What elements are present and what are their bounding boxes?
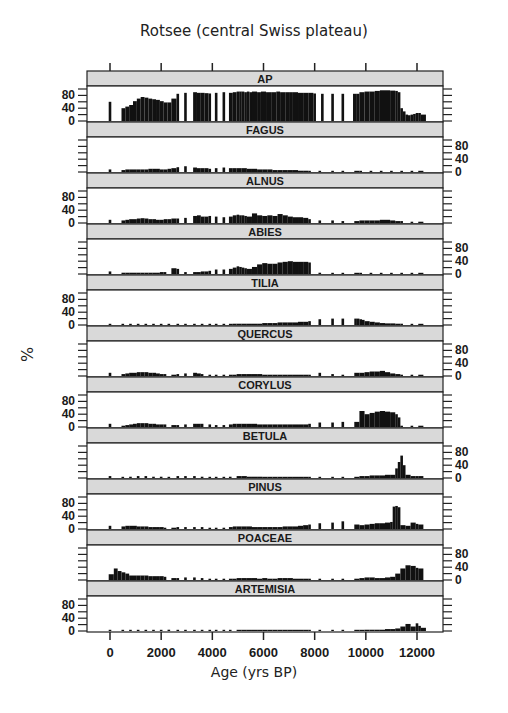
bar	[395, 374, 400, 376]
bar	[288, 526, 293, 529]
bar	[272, 477, 277, 478]
y-tick-label: 0	[455, 573, 462, 587]
bar	[109, 271, 112, 274]
bar	[201, 168, 205, 172]
bar	[148, 219, 152, 223]
bar	[308, 321, 311, 325]
y-tick-label: 0	[455, 369, 462, 383]
bar	[121, 426, 125, 427]
bar	[233, 324, 237, 325]
bar	[137, 169, 141, 172]
bar	[125, 273, 129, 274]
bar	[176, 476, 179, 478]
bar	[262, 263, 267, 274]
bar	[176, 374, 179, 376]
bar	[160, 630, 163, 631]
bar	[229, 424, 233, 427]
bar	[370, 273, 373, 274]
bar	[331, 273, 334, 274]
bar	[148, 99, 152, 121]
panel-strip-label: TILIA	[251, 277, 279, 289]
panel-strip-label: CORYLUS	[238, 379, 291, 391]
bar	[148, 527, 152, 529]
bar	[129, 169, 133, 172]
bar	[164, 577, 167, 580]
bar	[160, 477, 163, 478]
bar	[197, 93, 201, 121]
bar	[395, 574, 400, 580]
bar	[400, 456, 403, 478]
bar	[168, 630, 171, 631]
bar	[237, 476, 242, 478]
bar	[303, 262, 308, 274]
bar	[193, 527, 196, 529]
bar	[152, 630, 155, 631]
bar	[308, 262, 311, 274]
bar	[354, 525, 359, 529]
bar	[359, 525, 364, 529]
bar	[375, 372, 380, 376]
bar	[137, 476, 140, 478]
bar	[215, 168, 218, 172]
bar	[201, 578, 204, 580]
bar	[156, 220, 160, 223]
bar	[385, 372, 390, 376]
bar	[390, 629, 395, 631]
bar	[400, 171, 403, 172]
bar	[400, 221, 403, 223]
bar	[141, 423, 145, 427]
bar	[303, 93, 308, 121]
bar	[298, 630, 303, 631]
bar	[411, 523, 416, 529]
bar	[223, 168, 226, 172]
bar	[267, 169, 272, 172]
bar	[129, 424, 133, 427]
bar	[233, 375, 237, 376]
bar	[308, 375, 311, 376]
bar	[252, 169, 257, 172]
bar	[411, 375, 414, 376]
bar	[247, 424, 252, 427]
bar	[141, 576, 145, 580]
y-tick-label: 0	[68, 216, 75, 230]
bar	[257, 424, 262, 427]
bar	[303, 579, 308, 580]
bar	[398, 417, 401, 427]
bar	[342, 477, 345, 478]
bar	[156, 273, 160, 274]
y-tick-label: 80	[455, 445, 469, 459]
bar	[278, 170, 283, 172]
bar	[121, 477, 124, 478]
bar	[313, 93, 316, 121]
x-tick-label: 12000	[399, 645, 435, 660]
bar	[267, 630, 272, 631]
bar	[283, 262, 288, 274]
bar	[152, 99, 156, 121]
bar	[380, 630, 385, 631]
bar	[411, 115, 414, 121]
bar	[266, 92, 271, 121]
bar	[283, 526, 288, 529]
bar	[390, 220, 395, 223]
bar	[359, 171, 362, 172]
panel-plot-area	[87, 596, 443, 632]
bar	[160, 169, 164, 172]
bar	[233, 424, 237, 427]
bar	[405, 565, 410, 580]
bar	[201, 424, 204, 427]
bar	[380, 273, 383, 274]
bar	[308, 477, 311, 478]
panel-strip-label: ARTEMISIA	[235, 583, 296, 595]
bar	[318, 423, 321, 427]
bar	[247, 578, 252, 580]
bar	[176, 527, 179, 529]
bar	[331, 477, 334, 478]
bar	[141, 526, 145, 529]
bar	[385, 523, 390, 529]
bar	[400, 324, 403, 325]
bar	[164, 219, 168, 223]
bar	[133, 101, 137, 121]
bar	[176, 167, 179, 172]
bar	[129, 324, 132, 325]
bar	[303, 218, 308, 223]
